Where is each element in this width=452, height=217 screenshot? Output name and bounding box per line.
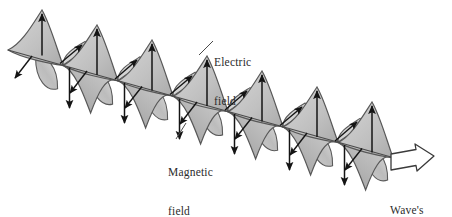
wave-motion-arrow-icon: [391, 144, 434, 171]
magnetic-field-label-line2: field: [168, 205, 213, 217]
wave-motion-label: Wave's motion: [390, 178, 424, 217]
em-wave-figure: Electric field Magnetic field Wave's mot…: [0, 0, 452, 217]
magnetic-field-label-line1: Magnetic: [168, 166, 213, 179]
magnetic-label-leader-line: [176, 123, 186, 139]
electric-field-label-line2: field: [214, 95, 251, 108]
electric-field-label: Electric field: [214, 30, 251, 134]
magnetic-field-label: Magnetic field: [168, 140, 213, 217]
electric-label-leader-line: [199, 41, 213, 55]
wave-motion-label-line1: Wave's: [390, 204, 424, 217]
electric-field-label-line1: Electric: [214, 56, 251, 69]
